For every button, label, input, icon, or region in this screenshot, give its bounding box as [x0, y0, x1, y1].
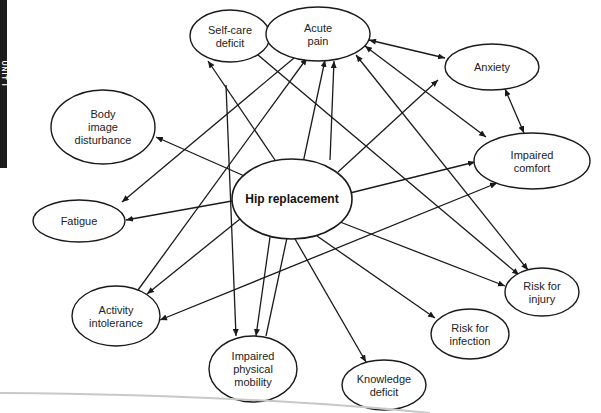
- page-fold-line: [0, 0, 601, 413]
